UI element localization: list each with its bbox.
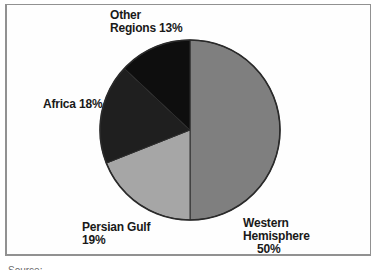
slice-label-western-hemisphere: Western Hemisphere 50%: [243, 217, 310, 256]
slice-label-line: 19%: [82, 234, 150, 247]
source-caption-cutoff: Source:: [8, 265, 188, 270]
slice-label-other-regions: Other Regions 13%: [110, 9, 183, 35]
slice-label-line: Regions 13%: [110, 22, 183, 35]
slice-label-persian-gulf: Persian Gulf 19%: [82, 221, 150, 247]
slice-label-africa: Africa 18%: [43, 98, 102, 111]
slice-label-line: 50%: [243, 243, 310, 256]
pie-slice-western-hemisphere: [190, 40, 280, 220]
pie-chart-svg: [0, 0, 379, 271]
slice-label-line: Africa 18%: [43, 98, 102, 111]
figure: Other Regions 13% Africa 18% Persian Gul…: [0, 0, 379, 271]
